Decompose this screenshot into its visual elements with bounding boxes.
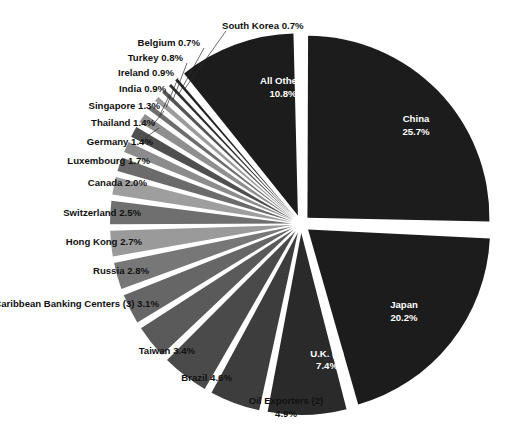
- pie-chart-figure: China25.7%Japan20.2%U.K. (1)7.4%Oil Expo…: [0, 0, 505, 446]
- slice-label-pct: 7.4%: [316, 360, 338, 371]
- slice-label: Canada 2.0%: [88, 177, 148, 188]
- slice-label: Singapore 1.3%: [89, 100, 161, 111]
- slice-label-pct: 25.7%: [402, 126, 430, 137]
- slice-label: Germany 1.4%: [87, 136, 154, 147]
- slice-label-name: U.K. (1): [310, 348, 344, 359]
- slice-label: India 0.9%: [119, 83, 166, 94]
- slice-label: Belgium 0.7%: [138, 37, 201, 48]
- slice-label-name: All Others: [260, 75, 306, 86]
- slice-label: Turkey 0.8%: [128, 52, 184, 63]
- slice-label: Luxembourg 1.7%: [67, 155, 150, 166]
- slice-label: Taiwan 3.4%: [139, 345, 196, 356]
- slice-label: Russia 2.8%: [93, 265, 149, 276]
- slice-label-name: Oil Exporters (2): [249, 395, 324, 406]
- slice-label-name: Japan: [390, 299, 418, 310]
- slice-label-pct: 20.2%: [390, 312, 418, 323]
- slice-label: Brazil 4.6%: [181, 372, 232, 383]
- slice-label-pct: 4.9%: [275, 408, 297, 419]
- slice-label: South Korea 0.7%: [222, 20, 304, 31]
- slice-label: Caribbean Banking Centers (3) 3.1%: [0, 298, 159, 309]
- slice-label: Ireland 0.9%: [118, 67, 174, 78]
- slice-label-name: China: [403, 113, 430, 124]
- slice-label-pct: 10.8%: [269, 88, 297, 99]
- slice-label: Thailand 1.4%: [91, 117, 155, 128]
- slice-label: Switzerland 2.5%: [63, 207, 141, 218]
- slice-label: Hong Kong 2.7%: [66, 236, 143, 247]
- pie-chart-canvas: China25.7%Japan20.2%U.K. (1)7.4%Oil Expo…: [0, 0, 505, 446]
